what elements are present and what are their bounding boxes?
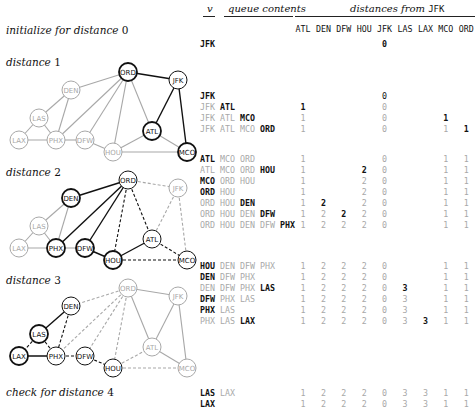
distance-cell-den: 2 <box>313 261 333 271</box>
distance-cell-lax: 3 <box>415 399 435 409</box>
distance-cell-dfw: 2 <box>334 283 354 293</box>
node-atl: ATL <box>143 338 161 356</box>
distance-cell-jfk: 0 <box>375 261 395 271</box>
distance-cell-mco: 1 <box>436 305 456 315</box>
distance-cell-atl: 1 <box>293 209 313 219</box>
node-jfk: JFK <box>169 71 187 89</box>
node-mco: MCO <box>178 359 196 377</box>
distance-cell-atl: 1 <box>293 294 313 304</box>
svg-text:MCO: MCO <box>179 365 196 373</box>
svg-text:LAX: LAX <box>12 353 26 361</box>
table-row: DENDFWPHXLAS12220311 <box>0 283 475 294</box>
distance-cell-atl: 1 <box>293 399 313 409</box>
queue-contents: DENDFWPHX <box>200 272 260 282</box>
svg-text:ORD: ORD <box>120 69 136 77</box>
distance-cell-dfw: 2 <box>334 388 354 398</box>
column-header-mco: MCO <box>436 24 456 34</box>
distance-cell-hou: 2 <box>354 272 374 282</box>
column-header-hou: HOU <box>354 24 374 34</box>
table-row: ORDHOU12011 <box>0 187 475 198</box>
svg-text:PHX: PHX <box>49 353 63 361</box>
distance-cell-ord: 1 <box>456 261 475 271</box>
queue-item: JFK <box>200 102 215 112</box>
node-las: LAS <box>30 325 48 343</box>
queue-item: ATL <box>200 165 215 175</box>
table-row: DFWPHXLAS12220311 <box>0 294 475 305</box>
distance-cell-atl: 1 <box>293 102 313 112</box>
distance-cell-jfk: 0 <box>375 165 395 175</box>
distance-cell-atl: 1 <box>293 124 313 134</box>
distance-cell-hou: 2 <box>354 220 374 230</box>
queue-item: ORD <box>260 124 275 134</box>
distance-cell-mco: 1 <box>436 283 456 293</box>
queue-item: MCO <box>240 124 255 134</box>
distance-cell-mco: 1 <box>436 187 456 197</box>
table-row: HOUDENDFWPHX1222011 <box>0 261 475 272</box>
queue-contents: PHXLASLAX <box>200 316 260 326</box>
distance-cell-mco: 1 <box>436 198 456 208</box>
queue-item: HOU <box>260 165 275 175</box>
queue-item: DEN <box>220 261 235 271</box>
distance-cell-mco: 1 <box>436 165 456 175</box>
queue-item: PHX <box>240 283 255 293</box>
distance-cell-atl: 1 <box>293 198 313 208</box>
queue-item: MCO <box>200 176 215 186</box>
table-row: ORDHOUDENDFW1222011 <box>0 209 475 220</box>
distance-cell-atl: 1 <box>293 388 313 398</box>
distances-from-label: distances from <box>350 3 425 14</box>
queue-item: HOU <box>240 176 255 186</box>
distance-cell-las: 3 <box>395 294 415 304</box>
distance-cell-jfk: 0 <box>375 39 395 49</box>
distance-cell-ord: 1 <box>456 272 475 282</box>
distance-cell-den: 2 <box>313 220 333 230</box>
distance-cell-atl: 1 <box>293 113 313 123</box>
distance-cell-mco: 1 <box>436 220 456 230</box>
step-label: initialize for distance 0 <box>6 24 129 36</box>
queue-contents: ORDHOU <box>200 187 240 197</box>
distance-cell-jfk: 0 <box>375 198 395 208</box>
queue-contents: LAX <box>200 399 220 409</box>
queue-contents-header: queue contents <box>228 3 306 14</box>
distance-cell-las: 3 <box>395 388 415 398</box>
distance-cell-las: 3 <box>395 305 415 315</box>
node-ord: ORD <box>119 63 137 81</box>
column-header-dfw: DFW <box>334 24 354 34</box>
node-atl: ATL <box>143 230 161 248</box>
svg-text:ATL: ATL <box>146 236 159 244</box>
distance-cell-dfw: 2 <box>334 261 354 271</box>
distance-cell-hou: 2 <box>354 187 374 197</box>
distance-cell-den: 2 <box>313 399 333 409</box>
queue-item: DFW <box>200 294 215 304</box>
distance-cell-jfk: 0 <box>375 176 395 186</box>
distance-cell-ord: 1 <box>456 209 475 219</box>
distance-cell-mco: 1 <box>436 272 456 282</box>
column-header-atl: ATL <box>293 24 313 34</box>
v-column-header: v <box>207 3 213 14</box>
distance-cell-ord: 1 <box>456 176 475 186</box>
queue-contents: ORDHOUDENDFWPHX <box>200 220 300 230</box>
table-row: LASLAX122203311 <box>0 388 475 399</box>
queue-item: PHX <box>240 272 255 282</box>
distance-cell-dfw: 2 <box>334 272 354 282</box>
distance-cell-hou: 2 <box>354 283 374 293</box>
queue-item: LAX <box>220 388 235 398</box>
svg-text:LAX: LAX <box>12 245 26 253</box>
column-header-las: LAS <box>395 24 415 34</box>
table-row: LAX122203311 <box>0 399 475 410</box>
distance-cell-mco: 1 <box>436 176 456 186</box>
distance-cell-den: 2 <box>313 272 333 282</box>
table-row: JFKATLMCO101 <box>0 113 475 124</box>
distance-cell-ord: 1 <box>456 124 475 134</box>
distance-cell-hou: 2 <box>354 261 374 271</box>
distance-cell-atl: 1 <box>293 272 313 282</box>
svg-text:LAS: LAS <box>32 331 46 339</box>
table-row: ORDHOUDEN122011 <box>0 198 475 209</box>
column-header-ord: ORD <box>456 24 475 34</box>
table-row: JFK0 <box>0 91 475 102</box>
queue-item: DEN <box>200 283 215 293</box>
node-phx: PHX <box>47 239 65 257</box>
table-row: JFK0 <box>0 39 475 50</box>
svg-text:ATL: ATL <box>146 344 159 352</box>
queue-item: ORD <box>200 209 215 219</box>
distance-cell-dfw: 2 <box>334 220 354 230</box>
